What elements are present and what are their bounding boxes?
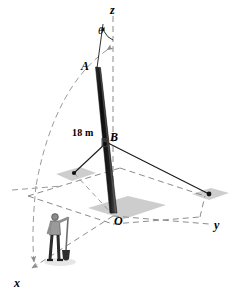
theta-arc [105,32,114,40]
ground-edge-right-connector [200,196,205,217]
B-node[interactable] [103,142,107,146]
point-B-label: B [110,131,118,143]
z-axis-label: z [110,4,115,16]
left-anchor-point[interactable] [72,171,76,175]
cable-B-to-left-anchor[interactable] [74,144,105,173]
ground-edge-far-right [120,168,205,196]
theta-angle-label: θ [98,25,103,36]
y-axis-label: y [214,219,219,231]
point-B-marker [102,138,109,147]
figure-canvas [0,0,243,301]
dimension-AB-label: 18 m [72,128,94,138]
x-axis-label: x [14,277,20,289]
worker-leg-right [58,235,59,259]
pole-base-shadow [88,196,166,219]
point-A-label: A [81,60,89,72]
shovel-blade [62,250,70,261]
right-anchor-point[interactable] [207,192,212,197]
worker-head [52,214,59,221]
physics-figure: z y x θ A B O 18 m [0,0,243,301]
arc-cross-tick [12,186,62,190]
worker-leg-left [50,235,52,259]
left-anchor-shadow [56,167,96,181]
point-O-label: O [114,215,123,227]
worker-with-shovel [47,214,70,261]
ground-shadows [44,167,229,266]
worker-arm-right [59,218,68,222]
